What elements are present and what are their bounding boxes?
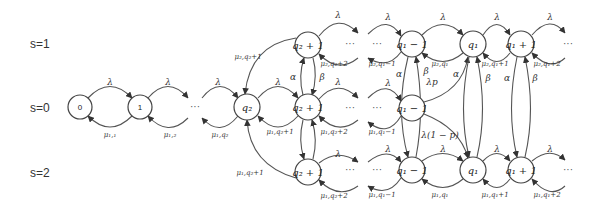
edge-label-l_mu1_q1p2_s2: μ₁,q₁+2: [533, 191, 561, 199]
edge-label-l_lambda_q2p1_s0: λ: [334, 77, 341, 87]
state-label: 0: [78, 103, 83, 112]
edge-label-l_lambda_s1_d: λ: [546, 12, 553, 22]
state-nodes: 01q₂q₂ + 1q₂ + 1q₂ + 1q₁ − 1q₁q₁ + 1q₁ −…: [68, 31, 537, 185]
state-node-nq1_s2: q₁: [460, 157, 486, 183]
edge-label-l_mu1_q1p1_s2: μ₁,q₁+1: [481, 191, 508, 199]
edge-label-l_lambda_s1_a: λ: [384, 12, 391, 22]
state-label: q₁ + 1: [505, 39, 537, 50]
edge-label-l_lambda_dots_q2: λ: [214, 77, 221, 87]
edge-label-l_lambda_q2p1_s2: λ: [334, 149, 341, 159]
state-label: q₂ + 1: [292, 40, 324, 51]
state-node-n0: 0: [68, 95, 92, 119]
edge-label-l_mu_1_0: μ₁,₁: [104, 131, 117, 139]
edge-label-l_mu1_q1_s2: μ₁,q₁: [432, 191, 449, 199]
state-label: q₁: [468, 165, 478, 176]
ellipsis-dots_s2_q2: ···: [345, 164, 355, 175]
row-label-s1: s=1: [30, 37, 50, 51]
edge-label-l_lambda_s1_c: λ: [493, 12, 500, 22]
edge-label-l_lambda_s2_b: λ: [439, 144, 446, 154]
state-label: q₁ − 1: [396, 165, 428, 176]
edge-label-l_mu2_q1: μ₂,q₁: [432, 60, 449, 68]
state-label: q₁ − 1: [396, 103, 428, 114]
row-labels: s=1s=0s=2: [30, 37, 50, 180]
edge-label-l_mu2_q1m1: μ₂,q₁−1: [368, 60, 395, 68]
edge-label-l_lambda_s2_d: λ: [546, 144, 553, 154]
edge-label-l_mu2_q1p2: μ₂,q₁+2: [533, 60, 561, 68]
state-label: q₂: [242, 102, 252, 113]
ellipsis-dots_s1_end: ···: [563, 38, 573, 49]
edges: [88, 23, 565, 192]
edge-label-l_lambda_q2_s0: λ: [274, 77, 281, 87]
ellipsis-dots_s2_a: ···: [372, 164, 382, 175]
row-label-s2: s=2: [30, 166, 50, 180]
edge-label-l_mu_q2p2_s0: μ₁,q₂+2: [320, 128, 348, 136]
edge-label-l_mu_q2p2_s2: μ₁,q₂+2: [320, 192, 348, 200]
edge-label-l_mu_dots_1: μ₁,₂: [164, 131, 177, 139]
edge-label-l_lambda_1mp: λ(1 − p): [420, 130, 459, 140]
markov-chain-diagram: 01q₂q₂ + 1q₂ + 1q₂ + 1q₁ − 1q₁q₁ + 1q₁ −…: [0, 0, 606, 212]
edge-label-l_lambda_s2_a: λ: [384, 144, 391, 154]
edge-label-l_alpha_q1: α: [453, 69, 459, 79]
edge-label-l_lambda_1_dots: λ: [164, 77, 171, 87]
edge-label-l_mu1_q1m1_s2: μ₁,q₁−1: [368, 191, 395, 199]
state-transition-graph: 01q₂q₂ + 1q₂ + 1q₂ + 1q₁ − 1q₁q₁ + 1q₁ −…: [0, 0, 606, 212]
ellipsis-dots_s1_a: ···: [372, 38, 382, 49]
ellipsis-dots_s0_q2: ···: [345, 102, 355, 113]
edge-label-l_lambda_s0_q1m1: λ: [384, 78, 391, 88]
edge-label-l_lambda_q2p1_s1: λ: [334, 10, 341, 20]
edge-label-l_mu_q2_dots: μ₁,q₂: [212, 131, 229, 139]
ellipsis-dots_s1_q2: ···: [345, 38, 355, 49]
edge-label-l_mu2_q1p1: μ₂,q₁+1: [481, 60, 508, 68]
state-label: q₁ − 1: [396, 39, 428, 50]
row-label-s0: s=0: [30, 101, 50, 115]
ellipsis-dots_s0_a: ···: [190, 101, 200, 112]
edge-label-l_mu1_q2p1_s2: μ₁,q₂+1: [236, 169, 263, 177]
state-label: q₁ + 1: [505, 165, 537, 176]
edge-label-l_beta_q2: β: [318, 72, 324, 82]
state-label: q₂ + 1: [292, 102, 324, 113]
edge-label-l_lambda_s2_c: λ: [493, 144, 500, 154]
edge-label-l_lambda_s1_b: λ: [439, 12, 446, 22]
edge-label-l_mu2_q2p1: μ₂,q₂+1: [234, 53, 261, 61]
state-label: 1: [138, 103, 143, 112]
edge-labels: λμ₁,₁λμ₁,₂λμ₁,q₂μ₂,q₂+1λμ₁,q₂+1μ₁,q₂+1αβ…: [104, 10, 561, 200]
edge-label-l_mu1_q1m1_s0: μ₁,q₁−1: [368, 128, 395, 136]
state-node-nq2: q₂: [234, 94, 260, 120]
state-node-n1: 1: [128, 95, 152, 119]
ellipsis-dots_s0_b: ···: [372, 102, 382, 113]
state-node-nq1_s1: q₁: [460, 31, 486, 57]
edge-label-l_lambda_p: λp: [425, 77, 438, 87]
edge-label-l_mu_q2p1_s0: μ₁,q₂+1: [266, 128, 293, 136]
edge-label-l_lambda_0_1: λ: [106, 77, 113, 87]
edge-label-l_alpha_q1m1: α: [396, 69, 402, 79]
state-label: q₂ + 1: [292, 167, 324, 178]
state-label: q₁: [468, 39, 478, 50]
edge-label-l_beta_q1: β: [484, 73, 490, 83]
edge-label-l_alpha_q2: α: [290, 72, 296, 82]
ellipsis-dots_s2_end: ···: [563, 164, 573, 175]
edge-label-l_alpha_q1p1: α: [504, 73, 510, 83]
edge-label-l_beta_q1p1: β: [531, 73, 537, 83]
edge-label-l_mu_q2p2_s1: μ₂,q₂+2: [320, 60, 348, 68]
edge-label-l_beta_q1m1: β: [422, 66, 428, 76]
